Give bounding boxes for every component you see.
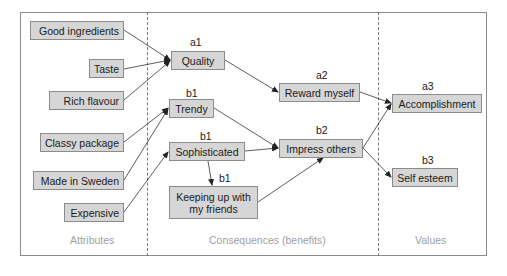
tag-self-esteem: b3 (422, 154, 434, 166)
node-good-ingredients: Good ingredients (30, 21, 124, 40)
edge-reward-myself-accomplishment (360, 92, 391, 103)
tag-reward-myself: a2 (316, 69, 328, 81)
node-taste: Taste (89, 59, 124, 78)
node-rich-flavour: Rich flavour (49, 91, 124, 110)
node-label: Trendy (175, 103, 207, 115)
tag-trendy: b1 (186, 87, 198, 99)
node-quality: Quality (171, 51, 225, 70)
edge-impress-others-accomplishment (363, 104, 391, 148)
node-classy-package: Classy package (40, 133, 124, 152)
node-label: Accomplishment (398, 98, 475, 110)
node-label: Self esteem (397, 172, 452, 184)
edge-made-in-sweden-trendy (124, 109, 168, 180)
node-label: Good ingredients (39, 25, 119, 37)
node-trendy: Trendy (169, 99, 214, 118)
tag-sophisticated: b1 (200, 130, 212, 142)
node-label: Impress others (286, 143, 355, 155)
tag-accomplishment: a3 (422, 80, 434, 92)
edge-keeping-up-impress-others (258, 158, 323, 202)
node-label-line2: my friends (189, 203, 237, 215)
node-label: Sophisticated (175, 146, 238, 158)
edge-sophisticated-impress-others (245, 148, 278, 151)
column-label-attributes: Attributes (70, 234, 114, 246)
edge-sophisticated-keeping-up (208, 161, 212, 185)
edge-good-ingredients-quality (124, 30, 170, 60)
node-label: Reward myself (285, 87, 354, 99)
tag-quality: a1 (190, 36, 202, 48)
node-made-in-sweden: Made in Sweden (33, 171, 124, 190)
node-impress-others: Impress others (279, 139, 363, 158)
node-label: Quality (182, 55, 215, 67)
node-label: Taste (94, 63, 119, 75)
tag-impress-others: b2 (316, 124, 328, 136)
node-self-esteem: Self esteem (392, 168, 458, 187)
node-label: Classy package (45, 137, 119, 149)
column-label-values: Values (415, 234, 446, 246)
edge-taste-quality (124, 60, 170, 69)
node-label: Made in Sweden (41, 175, 119, 187)
edge-impress-others-self-esteem (363, 148, 391, 177)
node-keeping-up-with-my-friends: Keeping up with my friends (169, 186, 258, 219)
edge-quality-reward-myself (225, 60, 278, 92)
edge-expensive-sophisticated (124, 152, 168, 212)
edge-classy-package-trendy (124, 108, 168, 142)
node-label-line1: Keeping up with (176, 191, 251, 203)
node-reward-myself: Reward myself (279, 83, 360, 102)
node-accomplishment: Accomplishment (392, 94, 482, 113)
node-label: Rich flavour (64, 95, 119, 107)
edge-rich-flavour-quality (124, 61, 170, 100)
node-expensive: Expensive (64, 203, 124, 222)
column-label-consequences: Consequences (benefits) (209, 234, 326, 246)
tag-keeping-up: b1 (219, 172, 231, 184)
node-label: Expensive (71, 207, 119, 219)
node-sophisticated: Sophisticated (169, 142, 245, 161)
